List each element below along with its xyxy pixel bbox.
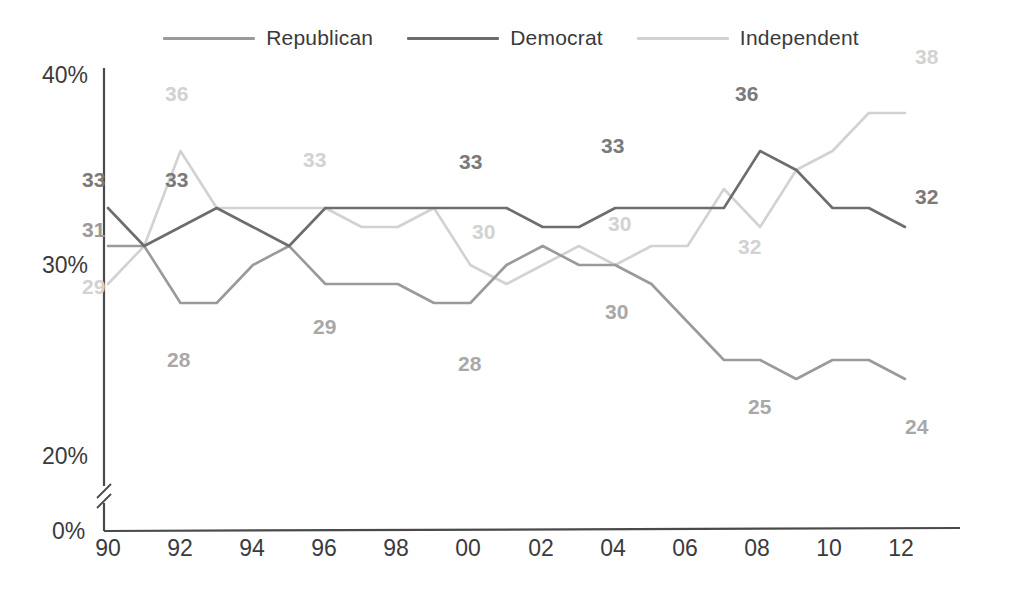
x-tick-94: 94 [237,535,267,562]
data-label-ind-2004: 30 [608,212,631,236]
x-tick-04: 04 [598,535,628,562]
x-axis-line [104,528,960,531]
series-line-democrat [108,151,905,246]
y-tick-40: 40% [42,62,88,89]
party-identification-line-chart: Republican Democrat Independent 40% 30% … [0,0,1022,600]
data-label-rep-1992: 28 [167,348,190,372]
x-tick-92: 92 [165,535,195,562]
data-label-dem-2000: 33 [459,150,482,174]
x-tick-02: 02 [526,535,556,562]
data-label-rep-2012: 24 [905,415,928,439]
data-label-ind-2000: 30 [472,220,495,244]
data-label-ind-1990: 29 [82,275,105,299]
x-tick-96: 96 [309,535,339,562]
data-label-dem-1993: 33 [165,168,188,192]
data-label-ind-1996: 33 [303,148,326,172]
axis-group [97,68,960,531]
x-tick-06: 06 [670,535,700,562]
series-line-republican [108,246,905,379]
data-label-dem-2012: 32 [915,185,938,209]
series-line-independent [108,113,905,284]
data-label-ind-2012: 38 [915,45,938,69]
y-tick-0: 0% [52,518,85,545]
data-label-dem-1990: 33 [82,168,105,192]
data-label-rep-2007: 25 [748,395,771,419]
x-tick-98: 98 [381,535,411,562]
plot-area [0,0,1022,600]
data-label-dem-2004: 33 [601,134,624,158]
x-tick-08: 08 [742,535,772,562]
data-label-rep-2003: 30 [605,300,628,324]
x-tick-00: 00 [453,535,483,562]
data-label-rep-1996: 29 [313,315,336,339]
y-tick-20: 20% [42,443,88,470]
series-group [108,113,905,379]
data-label-ind-2008: 32 [738,235,761,259]
x-tick-12: 12 [886,535,916,562]
x-tick-10: 10 [814,535,844,562]
x-tick-90: 90 [93,535,123,562]
data-label-ind-1992: 36 [165,82,188,106]
data-label-rep-1990: 31 [82,218,105,242]
data-label-dem-2008: 36 [735,82,758,106]
data-label-rep-1999: 28 [458,352,481,376]
